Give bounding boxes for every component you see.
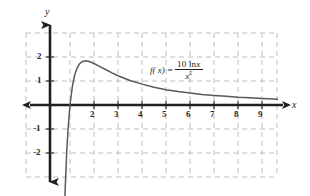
formula-fraction: 10 lnx x2 xyxy=(175,59,202,81)
formula-denominator-exponent: 2 xyxy=(189,70,192,76)
y-axis-label: y xyxy=(45,7,49,17)
graph-canvas xyxy=(0,0,310,196)
y-tick-label-2: 2 xyxy=(37,52,42,61)
x-tick-label-3: 3 xyxy=(114,110,119,119)
formula-numerator: 10 lnx xyxy=(175,59,202,69)
x-tick-label-7: 7 xyxy=(210,110,215,119)
function-formula-annotation: f( x) = 10 lnx x2 xyxy=(150,60,203,82)
x-tick-label-8: 8 xyxy=(234,110,239,119)
y-tick-label-minus-1: -1 xyxy=(33,124,41,133)
x-tick-label-9: 9 xyxy=(258,110,263,119)
x-axis-label: x xyxy=(292,100,296,110)
x-tick-label-2: 2 xyxy=(90,110,95,119)
graph-figure: y x 2 3 4 5 6 7 8 9 2 1 -1 -2 f( x) = 10… xyxy=(0,0,310,196)
formula-denominator: x2 xyxy=(175,69,202,81)
formula-lhs: f( x) = xyxy=(150,65,173,75)
x-tick-label-5: 5 xyxy=(162,110,167,119)
y-tick-label-minus-2: -2 xyxy=(33,148,41,157)
formula-numerator-prefix: 10 ln xyxy=(177,59,196,69)
y-tick-label-1: 1 xyxy=(37,76,42,85)
formula-numerator-variable: x xyxy=(196,59,200,69)
x-tick-label-6: 6 xyxy=(186,110,191,119)
x-tick-label-4: 4 xyxy=(138,110,143,119)
